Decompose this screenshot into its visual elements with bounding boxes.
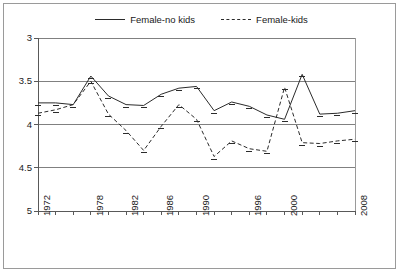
x-axis-tick-label: 1978 <box>95 195 105 216</box>
y-axis-tick-label: 3.5 <box>4 76 32 86</box>
y-axis-tick-label: 3 <box>4 33 32 43</box>
chart-figure: Female-no kids Female-kids 54.543.53 197… <box>0 0 403 275</box>
y-axis-tick-label: 4.5 <box>4 163 32 173</box>
x-axis-tick-label: 1972 <box>42 195 52 216</box>
x-axis-tick-label: 1986 <box>165 195 175 216</box>
x-axis-tick-label: 2008 <box>359 195 369 216</box>
x-axis-tick-label: 1990 <box>201 195 211 216</box>
x-axis-tick-label: 1996 <box>253 195 263 216</box>
series-line-female-kids <box>38 81 355 156</box>
y-axis-tick-label: 5 <box>4 206 32 216</box>
x-axis-tick-label: 2000 <box>289 195 299 216</box>
plot-area <box>0 0 403 275</box>
y-axis-tick-label: 4 <box>4 120 32 130</box>
x-axis-tick-label: 1982 <box>130 195 140 216</box>
